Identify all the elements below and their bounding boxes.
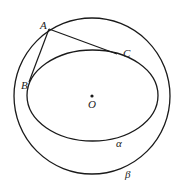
label-C: C — [123, 47, 131, 59]
segment-AB — [29, 29, 49, 82]
label-A: A — [39, 19, 47, 31]
geometry-diagram: A B C O α β — [0, 0, 185, 192]
label-O: O — [88, 98, 96, 110]
label-B: B — [21, 79, 28, 91]
label-beta: β — [124, 168, 131, 180]
label-alpha: α — [116, 137, 122, 149]
